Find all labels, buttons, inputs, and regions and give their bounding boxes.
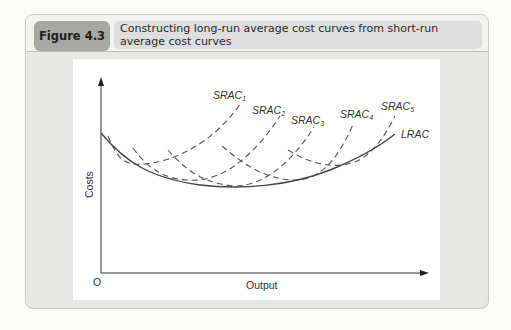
srac1-label: SRAC1	[213, 89, 246, 102]
srac5-label: SRAC5	[381, 100, 414, 113]
y-axis-label: Costs	[83, 171, 95, 198]
srac2-label: SRAC2	[252, 104, 285, 117]
x-axis-label: Output	[246, 279, 278, 291]
cost-curves-chart: O Output Costs SRAC1 SRAC2 SRAC3 SRAC4 S…	[0, 0, 511, 330]
srac4-label: SRAC4	[340, 108, 373, 121]
origin-label: O	[93, 276, 101, 288]
lrac-label: LRAC	[401, 128, 429, 140]
plot-area	[73, 59, 440, 300]
srac3-label: SRAC3	[291, 114, 324, 127]
